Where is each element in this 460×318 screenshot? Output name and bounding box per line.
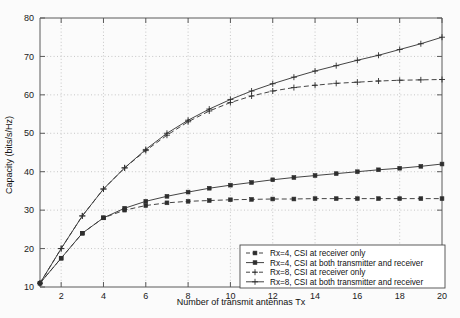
y-tick-label: 20 [24, 244, 34, 254]
legend-item-4[interactable]: Rx=8, CSI at both transmitter and receiv… [246, 278, 423, 287]
legend-label: Rx=8, CSI at both transmitter and receiv… [270, 278, 423, 287]
x-tick-label: 6 [143, 291, 148, 301]
y-tick-label: 60 [24, 90, 34, 100]
y-tick-label: 50 [24, 128, 34, 138]
data-point-marker [253, 251, 257, 255]
legend-label: Rx=4, CSI at both transmitter and receiv… [270, 259, 423, 268]
data-point-marker [271, 197, 275, 201]
data-point-marker [165, 201, 169, 205]
capacity-vs-transmit-antennas-chart: 10203040506070802468101214161820 Rx=4, C… [0, 0, 460, 318]
data-point-marker [253, 261, 257, 265]
x-tick-label: 2 [59, 291, 64, 301]
data-point-marker [334, 172, 338, 176]
data-point-marker [207, 199, 211, 203]
x-tick-label: 20 [437, 291, 447, 301]
data-point-marker [377, 197, 381, 201]
data-point-marker [229, 198, 233, 202]
data-point-marker [186, 190, 190, 194]
data-point-marker [250, 197, 254, 201]
x-tick-label: 16 [352, 291, 362, 301]
data-point-marker [334, 197, 338, 201]
data-point-marker [250, 181, 254, 185]
data-point-marker [271, 178, 275, 182]
legend-label: Rx=8, CSI at receiver only [270, 268, 366, 277]
data-point-marker [144, 199, 148, 203]
data-point-marker [123, 206, 127, 210]
data-point-marker [207, 186, 211, 190]
data-point-marker [419, 164, 423, 168]
legend-label: Rx=4, CSI at receiver only [270, 249, 366, 258]
data-point-marker [398, 166, 402, 170]
y-tick-label: 10 [24, 282, 34, 292]
x-tick-label: 18 [395, 291, 405, 301]
y-axis-title: Capacity (bits/s/Hz) [4, 116, 14, 194]
data-point-marker [59, 256, 63, 260]
data-point-marker [144, 204, 148, 208]
chart-legend: Rx=4, CSI at receiver onlyRx=4, CSI at b… [240, 245, 445, 288]
data-point-marker [313, 174, 317, 178]
data-point-marker [355, 170, 359, 174]
data-point-marker [292, 176, 296, 180]
data-point-marker [377, 168, 381, 172]
data-point-marker [398, 197, 402, 201]
y-tick-label: 40 [24, 167, 34, 177]
x-tick-label: 14 [310, 291, 320, 301]
x-axis-title: Number of transmit antennas Tx [177, 297, 306, 307]
chart-figure: 10203040506070802468101214161820 Rx=4, C… [0, 0, 460, 318]
y-tick-label: 80 [24, 13, 34, 23]
data-point-marker [186, 199, 190, 203]
data-point-marker [80, 231, 84, 235]
data-point-marker [313, 197, 317, 201]
y-tick-label: 70 [24, 52, 34, 62]
data-point-marker [440, 162, 444, 166]
legend-item-2[interactable]: Rx=4, CSI at both transmitter and receiv… [246, 259, 423, 268]
data-point-marker [229, 183, 233, 187]
data-point-marker [440, 197, 444, 201]
data-point-marker [102, 216, 106, 220]
data-point-marker [292, 197, 296, 201]
data-point-marker [419, 197, 423, 201]
y-tick-label: 30 [24, 205, 34, 215]
data-point-marker [165, 194, 169, 198]
x-tick-label: 4 [101, 291, 106, 301]
data-point-marker [355, 197, 359, 201]
